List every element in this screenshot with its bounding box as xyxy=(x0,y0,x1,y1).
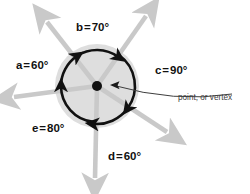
vertex-callout-label: point, or vertex xyxy=(178,93,232,102)
ray-down xyxy=(95,86,97,178)
angle-label-e: e = 80° xyxy=(32,122,65,134)
diagram-canvas: a = 60° b = 70° c = 90° d = 60° e = 80° … xyxy=(0,0,250,194)
angle-label-b: b = 70° xyxy=(76,21,109,33)
angle-label-d: d = 60° xyxy=(108,150,141,162)
vertex-dot xyxy=(92,81,102,91)
angles-around-point-diagram: a = 60° b = 70° c = 90° d = 60° e = 80° … xyxy=(0,0,250,194)
angle-label-a: a = 60° xyxy=(16,59,49,71)
angle-label-c: c = 90° xyxy=(155,64,188,76)
